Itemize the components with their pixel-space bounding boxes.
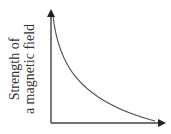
y-axis-arrow-icon <box>47 9 55 17</box>
chart: Strength of a magnetic field <box>0 0 171 134</box>
y-axis-label-line-2: a magnetic field <box>22 9 37 129</box>
decay-curve <box>53 16 155 121</box>
y-axis-label-line-1: Strength of <box>7 9 22 129</box>
x-axis-arrow-icon <box>158 119 166 127</box>
y-axis-label: Strength of a magnetic field <box>7 9 41 129</box>
